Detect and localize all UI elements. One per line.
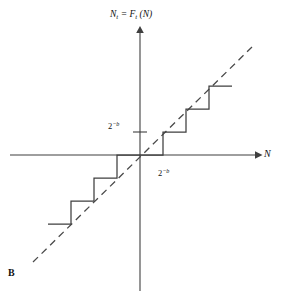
quantizer-staircase-plot: [0, 0, 285, 298]
y-tick-exponent: −b: [112, 121, 119, 127]
x-axis-title: N: [264, 149, 271, 159]
y-axis-arrowhead: [136, 26, 144, 33]
y-axis-tick-label: 2−b: [108, 121, 119, 130]
y-axis-title: Nt = Ft (N): [110, 10, 152, 21]
panel-letter-label: B: [8, 268, 15, 278]
staircase-upper-right: [140, 86, 232, 155]
staircase-lower-left: [48, 155, 140, 224]
y-axis-title-equals: =: [121, 9, 127, 19]
y-axis-title-argument: (N): [140, 9, 153, 19]
y-axis-title-var-subscript: t: [116, 13, 118, 20]
figure-panel-b: Nt = Ft (N) N 2−b 2−b B: [0, 0, 285, 298]
x-axis-arrowhead: [255, 151, 263, 159]
y-axis-title-func-subscript: t: [135, 13, 137, 20]
x-axis-tick-label: 2−b: [158, 168, 169, 177]
x-tick-exponent: −b: [162, 168, 169, 174]
